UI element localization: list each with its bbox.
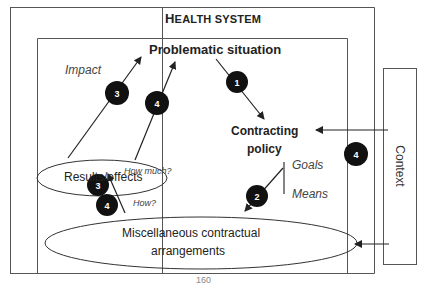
step-marker-4-results: 4 bbox=[145, 91, 169, 115]
step-marker-2-label: 2 bbox=[254, 192, 259, 202]
contracting-policy-label-line2: policy bbox=[247, 142, 282, 156]
step-marker-4-how: 4 bbox=[96, 194, 118, 216]
step-marker-2: 2 bbox=[246, 185, 268, 207]
goals-label: Goals bbox=[292, 158, 323, 172]
step-marker-3-impact-label: 3 bbox=[114, 89, 119, 99]
how-label: How? bbox=[133, 198, 156, 208]
step-marker-4-how-label: 4 bbox=[104, 201, 109, 211]
health-system-title-rest: EALTH SYSTEM bbox=[175, 13, 262, 25]
means-label: Means bbox=[292, 187, 328, 201]
page-number-fragment: 160 bbox=[196, 275, 211, 285]
health-system-title: HEALTH SYSTEM bbox=[165, 11, 261, 26]
impact-label: Impact bbox=[65, 63, 101, 77]
context-label: Context bbox=[393, 145, 407, 187]
step-marker-1: 1 bbox=[226, 71, 248, 93]
step-marker-1-label: 1 bbox=[234, 78, 239, 88]
arrangements-label-line1: Miscellaneous contractual bbox=[122, 226, 260, 240]
contracting-policy-label-line1: Contracting bbox=[231, 124, 298, 138]
arrangements-ellipse bbox=[45, 217, 357, 269]
problematic-situation-label: Problematic situation bbox=[149, 42, 281, 57]
health-system-title-initial: H bbox=[165, 11, 175, 26]
step-marker-4-results-label: 4 bbox=[154, 99, 159, 109]
step-marker-4-context: 4 bbox=[344, 142, 368, 166]
arrangements-label-line2: arrangements bbox=[151, 244, 225, 258]
step-marker-3-impact: 3 bbox=[105, 81, 129, 105]
step-marker-4-context-label: 4 bbox=[353, 150, 358, 160]
how-much-label: How much? bbox=[124, 166, 172, 176]
